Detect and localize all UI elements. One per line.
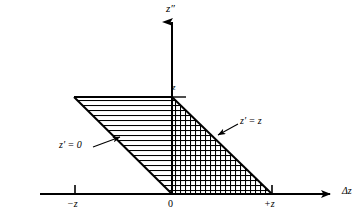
axis-label-z-double-prime: z″ bbox=[166, 3, 175, 14]
annotation-z-prime-equals-z: z′ = z bbox=[240, 116, 262, 126]
tick-label-plus-z: +z bbox=[264, 199, 275, 209]
leader-zprime-equals-z bbox=[218, 124, 238, 135]
axis-label-delta-z: Δz bbox=[342, 186, 352, 196]
axis-value-label-z: z bbox=[172, 83, 176, 92]
figure-canvas: z″ z z′ = 0 z′ = z Δz −z 0 +z bbox=[0, 0, 364, 218]
annotation-z-prime-equals-zero: z′ = 0 bbox=[59, 140, 82, 150]
leader-zprime-zero bbox=[93, 137, 120, 147]
diagram-svg bbox=[0, 0, 364, 218]
tick-label-zero: 0 bbox=[168, 199, 173, 209]
tick-label-minus-z: −z bbox=[67, 199, 78, 209]
